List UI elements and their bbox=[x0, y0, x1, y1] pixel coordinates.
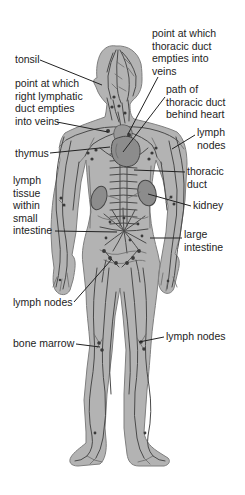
label-thymus: thymus bbox=[15, 147, 49, 160]
label-lymph-nodes-knee: lymph nodes bbox=[166, 330, 226, 343]
label-bone-marrow: bone marrow bbox=[13, 337, 74, 350]
label-kidney: kidney bbox=[193, 199, 223, 212]
label-path-thoracic-duct: path of thoracic duct behind heart bbox=[166, 83, 226, 121]
label-large-intestine: large intestine bbox=[184, 228, 223, 253]
label-point-thoracic-duct-veins: point at which thoracic duct empties int… bbox=[152, 27, 216, 77]
label-thoracic-duct: thoracic duct bbox=[187, 165, 224, 190]
label-lymph-tissue-small-intestine: lymph tissue within small intestine bbox=[13, 174, 52, 237]
label-lymph-nodes-groin: lymph nodes bbox=[13, 296, 73, 309]
lymphatic-system-diagram: point at which thoracic duct empties int… bbox=[0, 0, 245, 495]
label-right-lymphatic-duct-veins: point at which right lymphatic duct empt… bbox=[15, 77, 83, 127]
label-lymph-nodes-axilla: lymph nodes bbox=[197, 126, 226, 151]
label-tonsil: tonsil bbox=[15, 53, 40, 66]
